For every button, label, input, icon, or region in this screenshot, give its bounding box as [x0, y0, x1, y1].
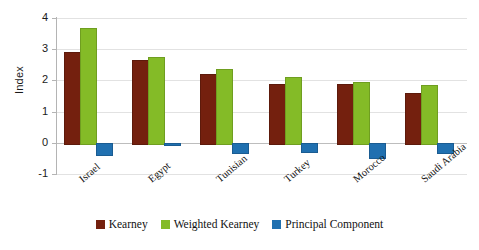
- bar: [269, 84, 286, 145]
- bar: [96, 143, 113, 156]
- y-axis-tick-label: 3: [4, 42, 48, 54]
- bar: [421, 85, 438, 145]
- bar: [337, 84, 354, 145]
- y-axis-tick-label: 1: [4, 105, 48, 117]
- bar: [285, 77, 302, 145]
- bar-group: [57, 18, 125, 174]
- chart-legend: KearneyWeighted KearneyPrincipal Compone…: [0, 218, 479, 230]
- plot-area: [57, 18, 467, 174]
- legend-label: Kearney: [109, 218, 148, 230]
- bar-chart: Index 43210-1 IsraelEgyptTunisianTurkeyM…: [0, 0, 479, 250]
- bar: [132, 60, 149, 145]
- bar: [64, 52, 81, 144]
- bar: [353, 82, 370, 145]
- legend-entry[interactable]: Kearney: [96, 218, 148, 230]
- bar-group: [330, 18, 398, 174]
- bar-group: [194, 18, 262, 174]
- bar: [148, 57, 165, 144]
- y-axis-tick-label: -1: [4, 167, 48, 179]
- legend-entry[interactable]: Principal Component: [272, 218, 383, 230]
- bar: [405, 93, 422, 145]
- bar-group: [262, 18, 330, 174]
- bar: [216, 69, 233, 144]
- x-axis-category-labels: IsraelEgyptTunisianTurkeyMoroccoSaudi Ar…: [57, 176, 467, 222]
- y-axis-tick-labels: 43210-1: [0, 18, 48, 174]
- bar-group: [125, 18, 193, 174]
- bar: [301, 143, 318, 153]
- legend-swatch-icon: [272, 220, 281, 229]
- y-axis-tick-label: 4: [4, 11, 48, 23]
- bar: [164, 143, 181, 146]
- bar: [80, 28, 97, 145]
- legend-entry[interactable]: Weighted Kearney: [161, 218, 260, 230]
- gridline: [57, 174, 467, 175]
- legend-label: Weighted Kearney: [174, 218, 260, 230]
- legend-swatch-icon: [96, 220, 105, 229]
- bar: [200, 74, 217, 145]
- legend-label: Principal Component: [285, 218, 383, 230]
- y-axis-tick-label: 0: [4, 136, 48, 148]
- y-axis-tick-label: 2: [4, 73, 48, 85]
- legend-swatch-icon: [161, 220, 170, 229]
